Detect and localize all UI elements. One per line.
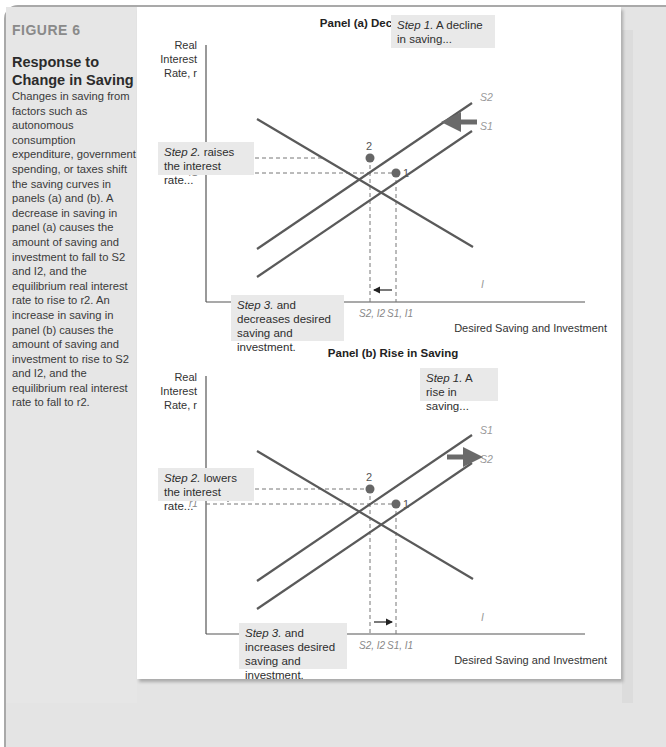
step-label: Step 3. [237, 299, 273, 311]
panel-b-i-label: I [481, 611, 484, 623]
right-margin-strip [622, 30, 633, 703]
panel-a-equilibrium-2 [366, 154, 375, 163]
panel-a-xlabel: Desired Saving and Investment [454, 322, 607, 334]
step-label: Step 1. [426, 372, 462, 384]
sidebar-body: Changes in saving from factors such as a… [12, 89, 136, 410]
panel-a-step1-callout: Step 1. A decline in saving... [391, 15, 495, 48]
panel-a-q1-label: S1, I1 [387, 308, 413, 319]
panel-b-point-2-label: 2 [366, 471, 372, 483]
panel-b-xlabel: Desired Saving and Investment [454, 654, 607, 666]
panel-b-title: Panel (b) Rise in Saving [328, 347, 458, 359]
step-label: Step 2. [164, 472, 200, 484]
step-label: Step 2. [164, 146, 200, 158]
panel-b-s2-curve [257, 463, 472, 609]
panel-b-q1-label: S1, I1 [387, 640, 413, 651]
panel-a-s2-label: S2 [480, 91, 493, 103]
panel-a-point-2-label: 2 [366, 140, 372, 152]
panel-b-ylabel-3: Rate, r [164, 399, 197, 411]
panel-b-equilibrium-1 [392, 500, 401, 509]
sidebar-title: Response to Change in Saving [12, 53, 137, 89]
panel-a-ylabel-1: Real [174, 39, 197, 51]
panel-b-step2-callout: Step 2. lowers the interest rate... [158, 468, 254, 501]
panel-a-s1-label: S1 [480, 120, 493, 132]
panel-a-q2-label: S2, I2 [359, 308, 386, 319]
panel-b-ylabel-2: Interest [160, 385, 197, 397]
panel-a-point-1-label: 1 [403, 167, 409, 179]
panel-a-equilibrium-1 [392, 169, 401, 178]
panel-a-ylabel-2: Interest [160, 53, 197, 65]
panel-b-equilibrium-2 [366, 485, 375, 494]
panel-b-s2-label: S2 [480, 453, 493, 465]
chart-card: Panel (a) Decline in Saving Real Interes… [137, 7, 621, 679]
panel-b-ylabel-1: Real [174, 371, 197, 383]
panel-b-step3-callout: Step 3. and increases desired saving and… [239, 623, 347, 669]
panel-b-point-1-label: 1 [403, 498, 409, 510]
figure-label: FIGURE 6 [12, 22, 81, 38]
panel-b-chart: Panel (b) Rise in Saving Real Interest R… [137, 341, 621, 671]
panel-a-step3-callout: Step 3. and decreases desired saving and… [231, 295, 344, 341]
panel-a-ylabel-3: Rate, r [164, 67, 197, 79]
panel-a-s1-curve [257, 131, 472, 277]
panel-b-q2-label: S2, I2 [359, 640, 386, 651]
panel-a-step2-callout: Step 2. raises the interest rate... [158, 142, 254, 175]
step-label: Step 1. [397, 19, 433, 31]
panel-b-s1-label: S1 [480, 424, 493, 436]
panel-a-i-label: I [481, 278, 484, 290]
panel-b-step1-callout: Step 1. A rise in saving... [420, 368, 498, 401]
step-label: Step 3. [245, 627, 281, 639]
